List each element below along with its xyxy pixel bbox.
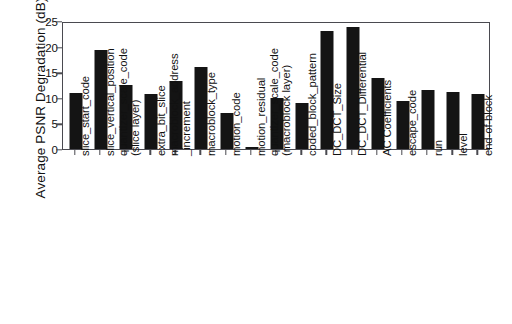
x-axis-tick-label: slice_start_code [79,76,91,156]
y-axis-tick-label: 5 [0,118,58,130]
x-axis-tick-label: macroblock_address_increment [168,54,192,156]
x-axis-tick-label: level [457,133,469,156]
x-axis-tick-mark [376,150,377,155]
x-axis-tick-label-line: DC_DCT_Differential [356,52,368,156]
x-axis-tick-mark [74,150,75,155]
x-axis-tick-label-line: end-of-block [482,95,494,156]
x-axis-tick-mark [426,150,427,155]
x-axis-tick-mark [250,150,251,155]
x-axis-tick-label: end-of-block [482,95,494,156]
bar-slot [415,23,440,149]
x-axis-tick-mark [452,150,453,155]
x-axis-tick-label-line: _increment [180,54,192,156]
x-axis-tick-mark [149,150,150,155]
x-axis-tick-label-line: slice_vertical_position [104,48,116,156]
x-axis-tick-mark [326,150,327,155]
x-axis-tick-label-line: macroblock_type [205,72,217,156]
x-axis-tick-label-line: (slice layer) [129,48,141,156]
x-axis-tick-label: run [432,140,444,156]
x-axis-tick-mark [401,150,402,155]
x-axis-tick-label-line: run [432,140,444,156]
x-axis-tick-label-line: motion_residual [255,78,267,156]
x-axis-tick-label-line: level [457,133,469,156]
x-axis-tick-mark [99,150,100,155]
y-axis-tick-label: 15 [0,67,58,79]
y-axis-tick-label: 0 [0,144,58,156]
x-axis-tick-mark [225,150,226,155]
x-axis-tick-label: DC_DCT_Differential [356,52,368,156]
bar-slot [441,23,466,149]
x-axis-tick-mark [351,150,352,155]
x-axis-tick-label-line: extra_bit_slice [155,85,167,156]
x-axis-tick-label-line: DC_DCT_Size [331,83,343,156]
x-axis-tick-label: motion_residual [255,78,267,156]
x-axis-tick-label-line: quantizer_scale_code [268,48,280,156]
y-axis-tick-label: 25 [0,16,58,28]
x-axis-tick-mark [300,150,301,155]
x-axis-tick-label-line: AC Coefficients [381,80,393,156]
x-axis-tick-label: coded_block_pattern [306,53,318,156]
x-axis-tick-label-line: (macroblock layer) [280,48,292,156]
x-axis-tick-label: escape_code [406,90,418,156]
y-axis-tick-label: 20 [0,42,58,54]
x-axis-tick-label-line: macroblock_address [168,54,180,156]
x-axis-tick-label: macroblock_type [205,72,217,156]
x-axis-tick-label: AC Coefficients [381,80,393,156]
x-axis-tick-label-line: slice_start_code [79,76,91,156]
x-axis-tick-label: extra_bit_slice [155,85,167,156]
x-axis-tick-label: quantizer_scale_code(slice layer) [117,48,141,156]
x-axis-tick-label: motion_code [230,92,242,156]
x-axis-tick-label: DC_DCT_Size [331,83,343,156]
x-axis-tick-label-line: escape_code [406,90,418,156]
x-axis-tick-label: quantizer_scale_code(macroblock layer) [268,48,292,156]
bar-chart-figure: Average PSNR Degradation (dB) 0510152025… [0,0,512,324]
x-axis-tick-label-line: coded_block_pattern [306,53,318,156]
x-axis-tick-mark [477,150,478,155]
x-axis-tick-mark [200,150,201,155]
x-axis-tick-label: slice_vertical_position [104,48,116,156]
y-axis-tick-label: 10 [0,93,58,105]
x-axis-tick-label-line: quantizer_scale_code [117,48,129,156]
x-axis-tick-label-line: motion_code [230,92,242,156]
